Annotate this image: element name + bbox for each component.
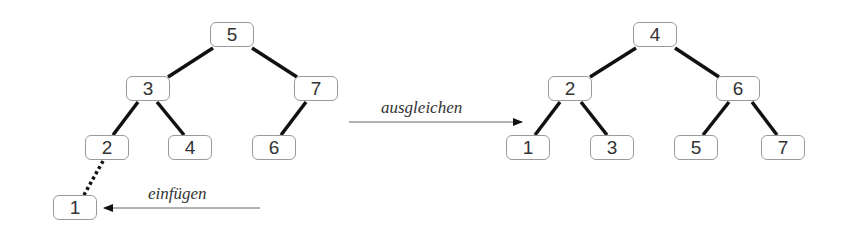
right-node-1: 1 xyxy=(506,135,550,160)
right-node-2: 2 xyxy=(548,76,592,101)
rebalance-label: ausgleichen xyxy=(381,98,462,118)
edge-6-7 xyxy=(752,102,777,135)
left-node-6: 6 xyxy=(252,135,296,160)
edge-5-7 xyxy=(252,48,297,77)
left-tree-edges xyxy=(84,48,306,195)
left-node-7: 7 xyxy=(294,76,338,101)
right-node-6: 6 xyxy=(716,76,760,101)
right-node-7: 7 xyxy=(761,135,805,160)
insert-label: einfügen xyxy=(148,184,207,204)
edge-2-3 xyxy=(581,102,607,135)
edge-3-2 xyxy=(113,102,138,135)
edge-4-2 xyxy=(590,48,636,77)
right-node-5: 5 xyxy=(674,135,718,160)
edge-2-1 xyxy=(535,102,560,135)
right-node-4: 4 xyxy=(633,22,677,47)
left-node-1-inserted: 1 xyxy=(53,195,97,220)
edge-5-3 xyxy=(168,48,213,77)
edge-3-4 xyxy=(157,102,184,135)
left-node-2: 2 xyxy=(85,135,129,160)
edge-7-6 xyxy=(281,102,306,135)
left-node-4: 4 xyxy=(168,135,212,160)
edge-6-5 xyxy=(703,102,729,135)
left-node-3: 3 xyxy=(126,76,170,101)
left-node-5: 5 xyxy=(210,22,254,47)
right-node-3: 3 xyxy=(590,135,634,160)
edge-4-6 xyxy=(675,48,719,77)
edge-2-1-dotted xyxy=(84,161,103,195)
